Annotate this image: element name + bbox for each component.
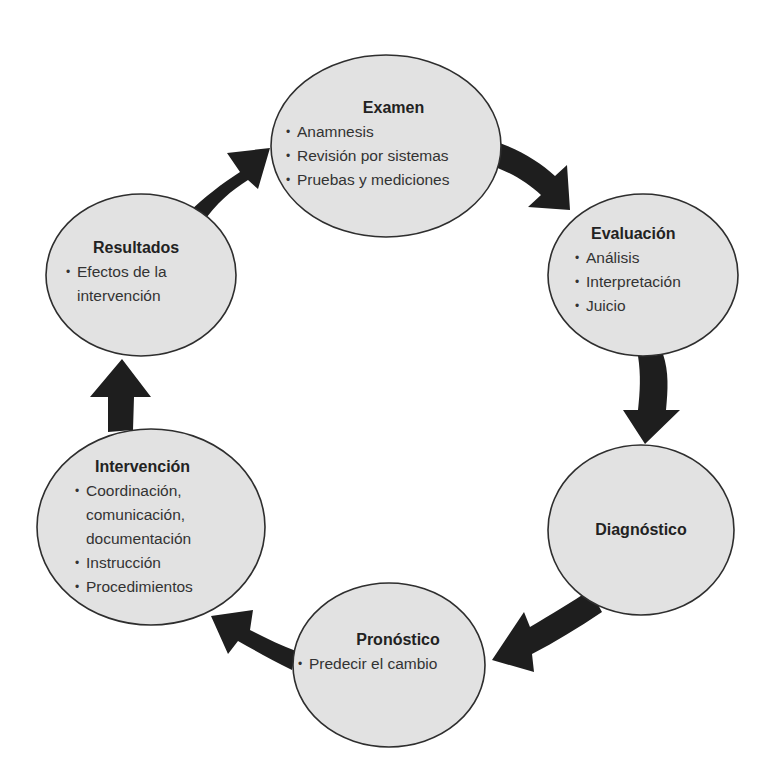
list-item: •Coordinación,: [75, 479, 255, 503]
node-title: Evaluación: [575, 222, 715, 246]
arrow-intervencion-to-resultados: [90, 359, 151, 432]
list-item: •Instrucción: [75, 551, 255, 575]
bullet-icon: •: [75, 551, 86, 575]
arrow-pronostico-to-intervencion: [211, 610, 296, 670]
list-item-continuation: comunicación,: [75, 503, 255, 527]
list-item-continuation: documentación: [75, 527, 255, 551]
bullet-icon: •: [286, 168, 297, 192]
list-item: •Análisis: [575, 246, 715, 270]
list-item-continuation: intervención: [66, 284, 226, 308]
bullet-icon: •: [575, 246, 586, 270]
node-title: Examen: [286, 96, 501, 120]
bullet-icon: •: [575, 294, 586, 318]
node-title: Resultados: [66, 236, 226, 260]
node-items: •Anamnesis •Revisión por sistemas •Prueb…: [286, 120, 501, 192]
bullet-icon: •: [75, 479, 86, 503]
list-item: •Anamnesis: [286, 120, 501, 144]
bullet-icon: •: [75, 575, 86, 599]
list-item: •Efectos de la: [66, 260, 226, 284]
node-diagnostico-text: Diagnóstico: [566, 518, 716, 542]
bullet-icon: •: [286, 144, 297, 168]
node-intervencion-text: Intervención •Coordinación, comunicación…: [75, 455, 255, 599]
node-items: •Predecir el cambio: [298, 652, 488, 676]
bullet-icon: •: [575, 270, 586, 294]
node-title: Intervención: [75, 455, 255, 479]
arrow-evaluacion-to-diagnostico: [623, 354, 680, 444]
node-title: Diagnóstico: [566, 518, 716, 542]
node-items: •Coordinación, comunicación, documentaci…: [75, 479, 255, 599]
list-item: •Procedimientos: [75, 575, 255, 599]
node-resultados-text: Resultados •Efectos de la intervención: [66, 236, 226, 308]
list-item: •Revisión por sistemas: [286, 144, 501, 168]
node-evaluacion-text: Evaluación •Análisis •Interpretación •Ju…: [575, 222, 715, 318]
bullet-icon: •: [286, 120, 297, 144]
list-item: •Interpretación: [575, 270, 715, 294]
node-items: •Efectos de la intervención: [66, 260, 226, 308]
node-title: Pronóstico: [298, 628, 488, 652]
arrow-examen-to-evaluacion: [492, 142, 570, 210]
node-examen-text: Examen •Anamnesis •Revisión por sistemas…: [286, 96, 501, 192]
bullet-icon: •: [66, 260, 77, 284]
arrow-diagnostico-to-pronostico: [492, 590, 602, 672]
list-item: •Pruebas y mediciones: [286, 168, 501, 192]
bullet-icon: •: [298, 652, 309, 676]
node-items: •Análisis •Interpretación •Juicio: [575, 246, 715, 318]
node-pronostico-text: Pronóstico •Predecir el cambio: [298, 628, 488, 676]
list-item: •Juicio: [575, 294, 715, 318]
list-item: •Predecir el cambio: [298, 652, 488, 676]
